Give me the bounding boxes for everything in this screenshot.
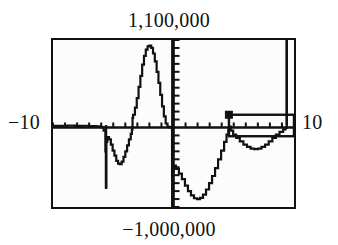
calculator-screen[interactable] (51, 38, 296, 209)
x-max-label: 10 (302, 112, 322, 132)
plot-area[interactable] (53, 40, 294, 207)
y-min-label: −1,000,000 (0, 219, 338, 239)
y-max-label: 1,100,000 (0, 10, 338, 30)
x-min-label: −10 (8, 112, 40, 132)
